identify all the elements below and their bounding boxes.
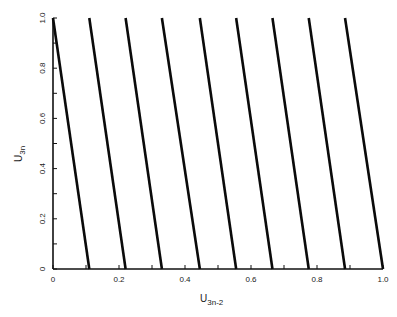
lattice-line: [126, 18, 162, 269]
y-tick-label: 0.6: [38, 112, 47, 124]
y-tick-label: 1.0: [38, 12, 47, 24]
x-axis-label: U3n-2: [200, 293, 224, 307]
y-tick-label: 0.2: [38, 213, 47, 225]
lattice-line: [345, 18, 383, 269]
x-tick-label: 0: [51, 275, 56, 284]
y-tick-label: 0.4: [38, 162, 47, 174]
y-axis-label: U3n: [13, 146, 27, 162]
axes: 00.20.40.60.81.000.20.40.60.81.0: [38, 12, 389, 284]
lattice-line: [309, 18, 345, 269]
x-tick-label: 0.8: [311, 275, 323, 284]
lattice-line: [162, 18, 200, 269]
lattice-line: [89, 18, 125, 269]
lattice-line: [200, 18, 236, 269]
data-lines: [53, 18, 383, 269]
x-tick-label: 0.2: [113, 275, 125, 284]
x-tick-label: 1.0: [377, 275, 389, 284]
lattice-line: [272, 18, 308, 269]
x-tick-label: 0.6: [245, 275, 257, 284]
x-tick-label: 0.4: [179, 275, 191, 284]
scatter-plot: 00.20.40.60.81.000.20.40.60.81.0 U3n-2 U…: [0, 0, 397, 317]
lattice-line: [53, 18, 89, 269]
lattice-line: [236, 18, 272, 269]
y-tick-label: 0.8: [38, 62, 47, 74]
y-tick-label: 0: [38, 266, 47, 271]
